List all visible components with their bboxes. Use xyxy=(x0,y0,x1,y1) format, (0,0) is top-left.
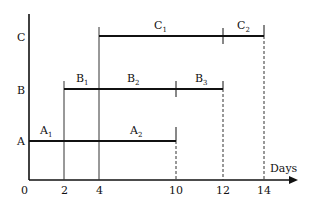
gantt-diagram: C B A C1 C2 B1 B2 B3 A1 A2 0 2 4 10 12 1… xyxy=(0,0,313,202)
activity-label-a2: A2 xyxy=(129,124,142,139)
row-label-c: C xyxy=(17,31,25,44)
activity-label-b2: B2 xyxy=(127,72,140,87)
x-axis-label: Days xyxy=(270,162,298,175)
x-tick-12: 12 xyxy=(216,184,230,197)
activity-label-c2: C2 xyxy=(237,19,250,34)
x-tick-14: 14 xyxy=(257,184,271,197)
activity-label-c1: C1 xyxy=(154,19,167,34)
x-axis-arrow-icon xyxy=(289,176,298,184)
x-tick-4: 4 xyxy=(96,184,103,197)
activity-label-b3: B3 xyxy=(195,72,208,87)
row-label-b: B xyxy=(17,84,25,97)
row-label-a: A xyxy=(16,135,26,148)
x-tick-10: 10 xyxy=(169,184,183,197)
activity-label-a1: A1 xyxy=(39,124,52,139)
x-tick-2: 2 xyxy=(61,184,68,197)
activity-label-b1: B1 xyxy=(76,72,89,87)
x-tick-0: 0 xyxy=(21,184,28,197)
